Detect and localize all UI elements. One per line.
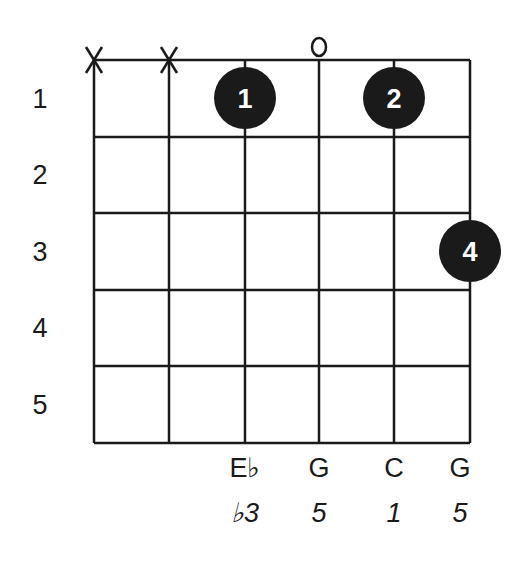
note-name: E♭ bbox=[229, 453, 260, 483]
fret-number-4: 4 bbox=[32, 313, 47, 343]
note-name: G bbox=[449, 453, 470, 483]
finger-number: 2 bbox=[386, 84, 401, 114]
interval-label: 5 bbox=[311, 498, 327, 528]
note-name: C bbox=[384, 453, 404, 483]
open-string-icon bbox=[312, 38, 326, 56]
note-names: E♭ G C G bbox=[229, 453, 470, 483]
finger-dot-1: 1 bbox=[214, 67, 276, 129]
finger-number: 1 bbox=[237, 84, 252, 114]
finger-number: 4 bbox=[462, 237, 477, 267]
fret-numbers: 1 2 3 4 5 bbox=[32, 84, 47, 420]
finger-dot-4: 4 bbox=[439, 220, 501, 282]
fret-number-1: 1 bbox=[32, 84, 47, 114]
fret-number-5: 5 bbox=[32, 390, 47, 420]
intervals: ♭3 5 1 5 bbox=[231, 498, 469, 528]
interval-label: 5 bbox=[452, 498, 468, 528]
fret-number-3: 3 bbox=[32, 237, 47, 267]
interval-label: 1 bbox=[386, 498, 401, 528]
chord-diagram: 1 2 3 4 5 1 2 4 E♭ G C G ♭3 bbox=[0, 0, 528, 563]
string-markers bbox=[86, 38, 326, 73]
interval-label: ♭3 bbox=[231, 498, 259, 528]
note-name: G bbox=[308, 453, 329, 483]
finger-dot-2: 2 bbox=[363, 67, 425, 129]
fret-number-2: 2 bbox=[32, 160, 47, 190]
